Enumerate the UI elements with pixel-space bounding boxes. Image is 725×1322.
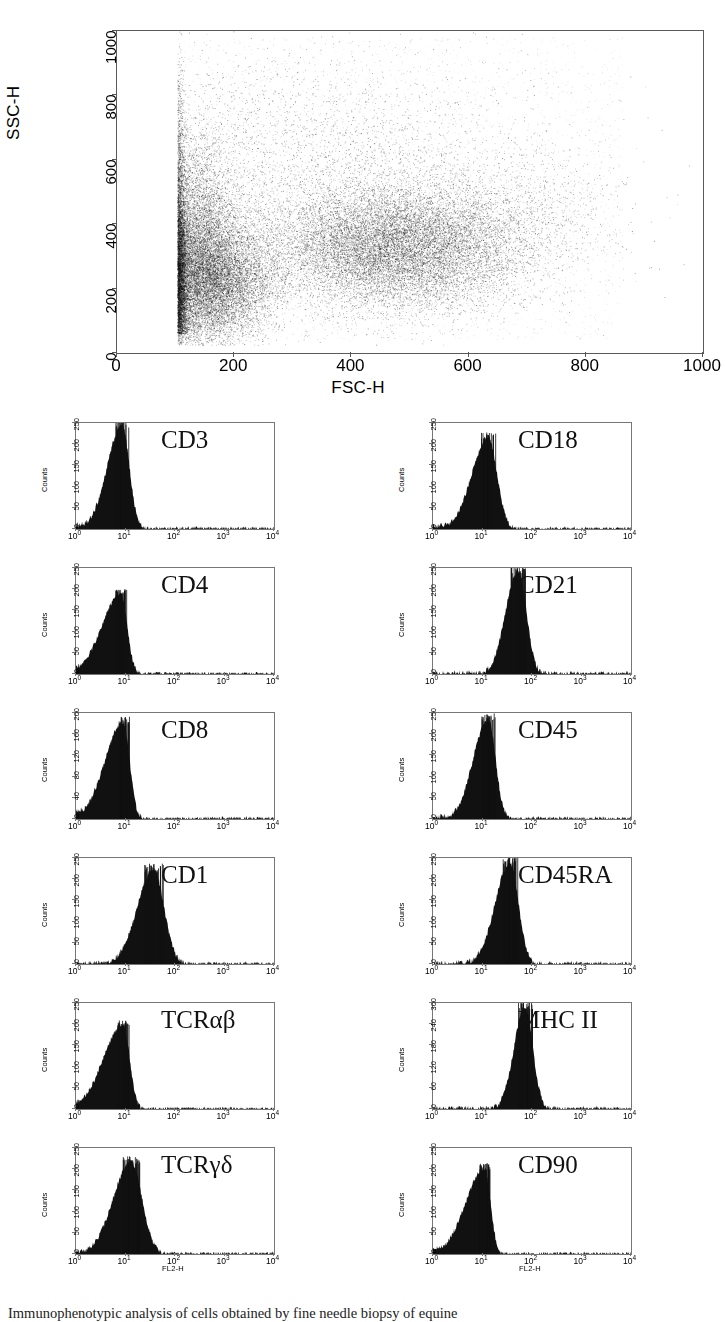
histogram-y-tick: 150 <box>72 460 81 473</box>
histogram-y-tickmark <box>429 1147 432 1148</box>
scatter-x-tickmark <box>350 352 351 357</box>
histogram-y-tick: 200 <box>429 584 438 597</box>
histogram-x-tickmark <box>630 818 631 821</box>
histogram-y-tick: 250 <box>72 998 81 1011</box>
histogram-y-tick: 150 <box>72 605 81 618</box>
histogram-y-tickmark <box>72 1147 75 1148</box>
histogram-x-tickmark <box>125 673 126 676</box>
histogram-x-tickmark <box>174 963 175 966</box>
histogram-y-tick: 250 <box>429 563 438 576</box>
scatter-y-tick: 1000 <box>102 31 119 64</box>
histogram-y-tick: 200 <box>429 1164 438 1177</box>
scatter-x-tickmark <box>233 352 234 357</box>
histogram-y-tickmark <box>72 1232 75 1233</box>
scatter-x-axis-label: FSC-H <box>0 378 716 398</box>
histogram-y-tickmark <box>72 942 75 943</box>
histogram-x-tickmark <box>482 1108 483 1111</box>
histogram-x-tickmark <box>75 963 76 966</box>
histogram-marker-label: CD90 <box>518 1151 578 1179</box>
histogram-x-tickmark <box>531 673 532 676</box>
histogram-x-tickmark <box>531 1108 532 1111</box>
histogram-x-tickmark <box>174 818 175 821</box>
histogram-y-tick: 100 <box>72 1061 81 1074</box>
histogram-y-tickmark <box>429 1211 432 1212</box>
histogram-panel: Counts050100150200250100101102103104CD90… <box>358 1133 716 1278</box>
histogram-x-tickmark <box>581 963 582 966</box>
histogram-y-tick: 200 <box>72 584 81 597</box>
histogram-marker-label: MHC II <box>518 1006 598 1034</box>
histogram-x-tickmark <box>581 1108 582 1111</box>
histogram-y-tickmark <box>72 422 75 423</box>
histogram-marker-label: CD8 <box>161 716 208 744</box>
histogram-panel: Counts050100150200250100101102103104CD1 <box>0 843 358 988</box>
histogram-y-tickmark <box>72 754 75 755</box>
histogram-y-tickmark <box>72 631 75 632</box>
histogram-y-tickmark <box>72 1002 75 1003</box>
histogram-x-tickmark <box>432 1108 433 1111</box>
histogram-y-tickmark <box>429 712 432 713</box>
histogram-y-tick: 120 <box>72 750 81 763</box>
scatter-y-tickmark <box>112 94 117 95</box>
histogram-marker-label: CD21 <box>518 571 578 599</box>
histogram-x-tickmark <box>432 673 433 676</box>
scatter-x-tickmark <box>585 352 586 357</box>
histogram-y-tickmark <box>429 754 432 755</box>
histogram-y-tickmark <box>72 878 75 879</box>
figure-caption-text: Immunophenotypic analysis of cells obtai… <box>8 1305 708 1322</box>
scatter-x-tickmark <box>468 352 469 357</box>
histogram-x-tickmark <box>273 673 274 676</box>
histogram-y-tickmark <box>429 1044 432 1045</box>
histogram-panel: Counts050100150200250100101102103104CD18 <box>358 408 716 553</box>
histogram-x-tickmark <box>630 963 631 966</box>
histogram-y-tickmark <box>429 443 432 444</box>
histogram-marker-label: TCRγδ <box>161 1151 232 1179</box>
histogram-y-tick: 200 <box>72 708 81 721</box>
histogram-x-tickmark <box>125 1253 126 1256</box>
histogram-x-tickmark <box>75 673 76 676</box>
histogram-x-tickmark <box>125 963 126 966</box>
histogram-y-tick: 150 <box>72 1185 81 1198</box>
histogram-x-tickmark <box>75 528 76 531</box>
histogram-y-tick: 200 <box>429 439 438 452</box>
histogram-panel: Counts04080120160200100101102103104CD8 <box>0 698 358 843</box>
histogram-y-tickmark <box>429 776 432 777</box>
scatter-y-tick: 800 <box>102 95 119 120</box>
histogram-y-tick: 250 <box>429 708 438 721</box>
histogram-y-tickmark <box>429 507 432 508</box>
histogram-y-tickmark <box>72 486 75 487</box>
histogram-panel: Counts050100150200250100101102103104CD3 <box>0 408 358 553</box>
histogram-y-tick: 150 <box>429 1185 438 1198</box>
scatter-plot-figure: SSC-H FSC-H 0200400600800100002004006008… <box>0 0 716 400</box>
histogram-x-tickmark <box>432 963 433 966</box>
histogram-x-tickmark <box>482 1253 483 1256</box>
histogram-x-tickmark <box>432 818 433 821</box>
histogram-y-tickmark <box>72 1211 75 1212</box>
histogram-x-tickmark <box>273 1253 274 1256</box>
histogram-y-tick: 200 <box>429 729 438 742</box>
histogram-x-tickmark <box>224 1253 225 1256</box>
histogram-marker-label: CD4 <box>161 571 208 599</box>
scatter-x-tick: 800 <box>550 356 620 376</box>
histogram-y-tickmark <box>429 652 432 653</box>
histogram-x-tickmark <box>224 528 225 531</box>
histogram-y-tickmark <box>72 588 75 589</box>
histogram-x-tickmark <box>630 1108 631 1111</box>
histogram-y-tickmark <box>429 1066 432 1067</box>
histogram-x-tickmark <box>75 818 76 821</box>
histogram-y-tickmark <box>429 857 432 858</box>
histogram-y-tickmark <box>429 1002 432 1003</box>
histogram-y-tickmark <box>429 1168 432 1169</box>
histogram-y-tickmark <box>72 733 75 734</box>
histogram-y-tickmark <box>429 733 432 734</box>
histogram-y-tick: 250 <box>429 853 438 866</box>
histogram-panel: Counts050100150200250100101102103104CD45 <box>358 698 716 843</box>
histogram-x-tickmark <box>482 818 483 821</box>
histogram-x-tickmark <box>482 963 483 966</box>
scatter-y-tickmark <box>112 223 117 224</box>
histogram-x-tickmark <box>531 818 532 821</box>
histogram-y-tickmark <box>429 486 432 487</box>
histogram-y-tickmark <box>72 776 75 777</box>
histogram-marker-label: CD18 <box>518 426 578 454</box>
histogram-y-tick: 250 <box>429 1143 438 1156</box>
histogram-x-tickmark <box>224 818 225 821</box>
